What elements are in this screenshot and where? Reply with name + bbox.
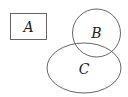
set-c-label: C — [79, 61, 90, 77]
venn-diagram: A B C — [0, 0, 128, 97]
set-a-label: A — [21, 19, 33, 35]
set-a: A — [11, 14, 47, 40]
set-b-label: B — [90, 25, 101, 41]
set-b: B — [73, 9, 121, 57]
set-c: C — [47, 43, 121, 93]
